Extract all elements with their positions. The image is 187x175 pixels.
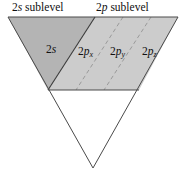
orbital-label-2px: 2px: [78, 46, 93, 59]
diagram-canvas: [0, 0, 187, 175]
orbital-label-2pz: 2pz: [142, 46, 157, 59]
orbital-label-2py: 2py: [110, 46, 125, 59]
header-label-2p-sublevel: 2p sublevel: [96, 2, 149, 14]
orbital-2pz-subscript: z: [154, 50, 157, 59]
orbital-label-2s: 2s: [46, 44, 56, 57]
orbital-2px-subscript: x: [90, 50, 94, 59]
header-2s-suffix: sublevel: [22, 1, 63, 13]
orbital-2py-subscript: y: [122, 50, 126, 59]
orbital-2s-italic: s: [52, 43, 56, 55]
empty-lower-region: [48, 90, 139, 168]
sublevel-diagram: 2s sublevel 2p sublevel 2s 2px 2py 2pz: [0, 0, 187, 175]
header-2p-suffix: sublevel: [108, 1, 149, 13]
header-label-2s-sublevel: 2s sublevel: [12, 2, 63, 14]
